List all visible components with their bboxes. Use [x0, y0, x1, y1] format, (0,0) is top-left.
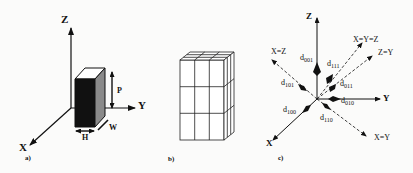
panel-a-height-label: P — [117, 87, 122, 95]
direction-d011-label: d011 — [340, 80, 353, 89]
panel-a-x-axis-label: X — [19, 142, 27, 153]
panel-c-x-axis-label: X — [266, 139, 273, 148]
panel-c-y-axis-label: Y — [383, 94, 390, 103]
panel-c-diagonal-xyz-label: X=Y=Z — [353, 36, 378, 44]
panel-c-caption: c) — [278, 155, 283, 162]
panel-c-diagonal-zy-label: Z=Y — [378, 49, 393, 57]
direction-d010-label: d010 — [341, 97, 354, 106]
panel-a-width-label: H — [82, 134, 88, 142]
direction-d001-label: d001 — [300, 54, 313, 63]
panel-b-caption: b) — [168, 156, 174, 163]
direction-d110-label: d110 — [320, 114, 333, 123]
panel-c-diagonal-xz-label: X=Z — [271, 48, 286, 56]
panel-b-graphics — [180, 52, 234, 140]
panel-a-caption: a) — [25, 155, 31, 162]
panel-c-z-axis-label: Z — [306, 12, 312, 21]
figure: Z Y X P W H a) b) Z Y X X=Z X=Y=Z Z=Y X=… — [0, 0, 413, 173]
panel-a-y-axis-label: Y — [138, 100, 146, 111]
direction-d111-label: d111 — [327, 60, 340, 69]
direction-d101-label: d101 — [281, 79, 294, 88]
direction-d100-label: d100 — [283, 106, 296, 115]
panel-c-diagonal-xy-label: X=Y — [374, 134, 390, 142]
panel-a-depth-label: W — [109, 124, 117, 132]
panel-a-z-axis-label: Z — [61, 14, 68, 25]
